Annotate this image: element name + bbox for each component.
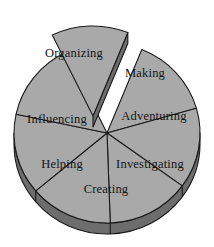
pie-label-organizing: Organizing: [45, 46, 104, 60]
pie-chart-canvas: Making Adventuring Investigating Creatin…: [0, 0, 214, 247]
pie-chart: Making Adventuring Investigating Creatin…: [0, 0, 214, 247]
pie-label-helping: Helping: [41, 157, 83, 171]
pie-label-making: Making: [125, 66, 166, 80]
pie-label-influencing: Influencing: [27, 112, 87, 126]
pie-label-creating: Creating: [84, 182, 129, 196]
pie-label-investigating: Investigating: [116, 157, 184, 171]
pie-label-adventuring: Adventuring: [121, 109, 187, 123]
